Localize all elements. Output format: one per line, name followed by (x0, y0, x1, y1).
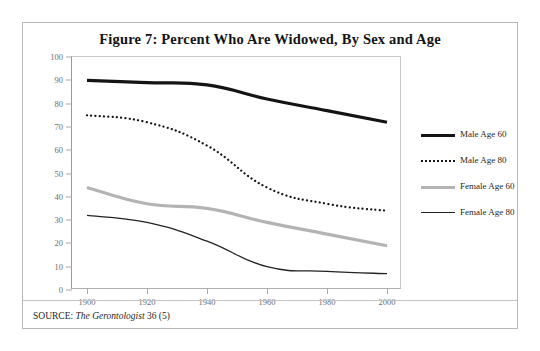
legend-item[interactable]: Female Age 80 (421, 199, 521, 225)
source-journal: The Gerontologist (76, 311, 145, 321)
series-line-male-age-60 (87, 80, 387, 122)
legend-swatch-line-icon (421, 207, 455, 217)
series-line-female-age-80 (87, 215, 387, 273)
legend-swatch-line-icon (421, 155, 455, 165)
series-line-male-age-80 (87, 115, 387, 211)
x-axis-tick-label: 1980 (319, 297, 336, 307)
chart-legend: Male Age 60Male Age 80Female Age 60Femal… (421, 121, 521, 225)
figure-container: Figure 7: Percent Who Are Widowed, By Se… (22, 22, 518, 329)
x-axis-tick-label: 1940 (199, 297, 216, 307)
legend-item[interactable]: Male Age 60 (421, 121, 521, 147)
legend-item-label: Female Age 60 (460, 181, 515, 191)
source-suffix: 36 (5) (145, 311, 170, 321)
legend-item-label: Female Age 80 (460, 207, 515, 217)
divider (23, 300, 517, 301)
legend-swatch-line-icon (421, 181, 455, 191)
x-axis-tick-label: 2000 (379, 297, 396, 307)
x-axis-tick-label: 1920 (139, 297, 156, 307)
legend-item-label: Male Age 80 (460, 155, 507, 165)
source-prefix: SOURCE: (33, 311, 76, 321)
series-line-female-age-60 (87, 187, 387, 245)
series-layer (72, 57, 402, 290)
legend-item[interactable]: Male Age 80 (421, 147, 521, 173)
plot-box: 0102030405060708090100 19001920194019601… (71, 56, 401, 289)
x-axis-tick-label: 1960 (259, 297, 276, 307)
legend-item[interactable]: Female Age 60 (421, 173, 521, 199)
legend-item-label: Male Age 60 (460, 129, 507, 139)
x-axis-tick-label: 1900 (79, 297, 96, 307)
source-note: SOURCE: The Gerontologist 36 (5) (33, 311, 170, 321)
legend-swatch-line-icon (421, 129, 455, 139)
